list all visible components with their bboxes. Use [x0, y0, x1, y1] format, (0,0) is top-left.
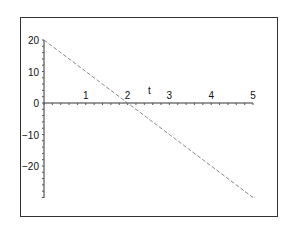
x-tick-label: 1 [83, 90, 89, 101]
x-tick-label: 5 [250, 90, 256, 101]
data-line [44, 40, 253, 198]
x-axis-label: t [148, 85, 151, 96]
y-tick-label: 20 [28, 35, 40, 46]
chart: 20100−10−20 12345 t [0, 0, 293, 229]
x-tick-label: 4 [208, 90, 214, 101]
x-tick-label: 3 [167, 90, 173, 101]
x-tick-label: 2 [125, 90, 131, 101]
y-tick-label: −10 [22, 130, 39, 141]
y-tick-label: 10 [28, 67, 40, 78]
y-tick-label: 0 [33, 98, 39, 109]
y-tick-label: −20 [22, 161, 39, 172]
